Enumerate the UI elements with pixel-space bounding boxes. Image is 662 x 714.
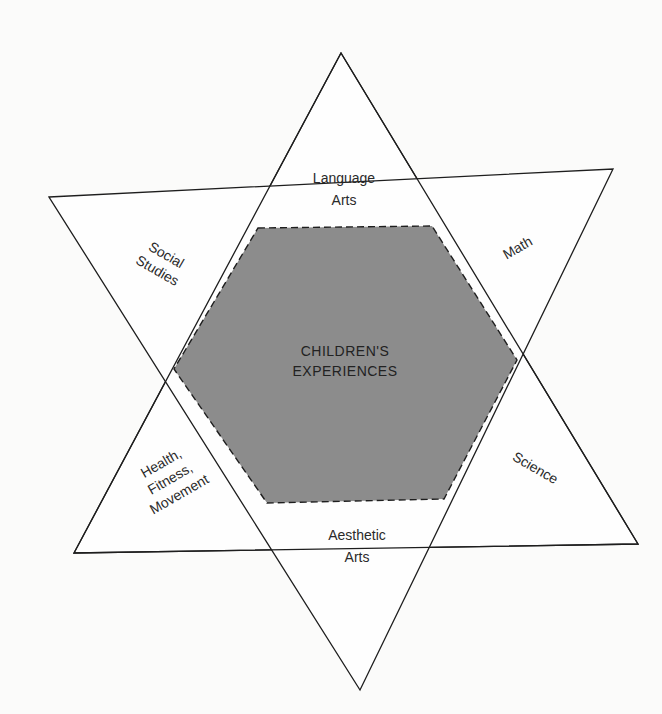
label-aesthetic-arts-line1: Aesthetic [328, 527, 386, 543]
center-label-line2: EXPERIENCES [292, 363, 397, 379]
label-language-arts-line2: Arts [332, 192, 357, 208]
label-language-arts-line1: Language [313, 170, 376, 186]
curriculum-star-diagram: CHILDREN'S EXPERIENCES Language Arts Mat… [0, 0, 662, 714]
center-label-line1: CHILDREN'S [301, 343, 390, 359]
star-diagram-svg: CHILDREN'S EXPERIENCES Language Arts Mat… [0, 0, 662, 714]
label-aesthetic-arts-line2: Arts [345, 549, 370, 565]
